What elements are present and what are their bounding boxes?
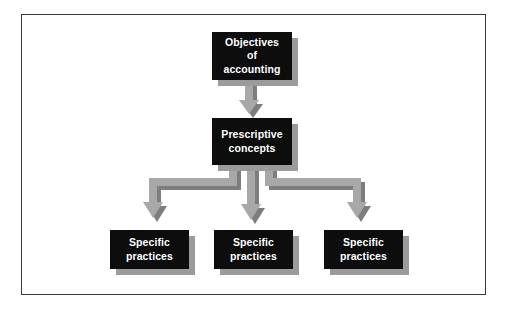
node-practice-mid-line-2: practices [230, 250, 277, 263]
node-practice-right: Specific practices [324, 230, 403, 269]
diagram-figure: Objectives of accounting Prescriptive co… [0, 0, 505, 309]
node-practice-mid: Specific practices [214, 230, 293, 269]
node-objectives-line-3: accounting [223, 63, 280, 76]
node-practice-right-line-1: Specific [343, 236, 384, 249]
node-objectives-line-2: of [247, 49, 257, 62]
node-practice-left-line-1: Specific [129, 236, 170, 249]
node-practice-left-line-2: practices [126, 250, 173, 263]
node-practice-right-line-2: practices [340, 250, 387, 263]
node-practice-mid-line-1: Specific [233, 236, 274, 249]
node-prescriptive: Prescriptive concepts [212, 118, 292, 165]
node-objectives-line-1: Objectives [225, 36, 279, 49]
node-objectives: Objectives of accounting [212, 32, 292, 80]
node-prescriptive-line-2: concepts [229, 142, 276, 155]
node-prescriptive-line-1: Prescriptive [221, 128, 282, 141]
node-practice-left: Specific practices [110, 230, 189, 269]
